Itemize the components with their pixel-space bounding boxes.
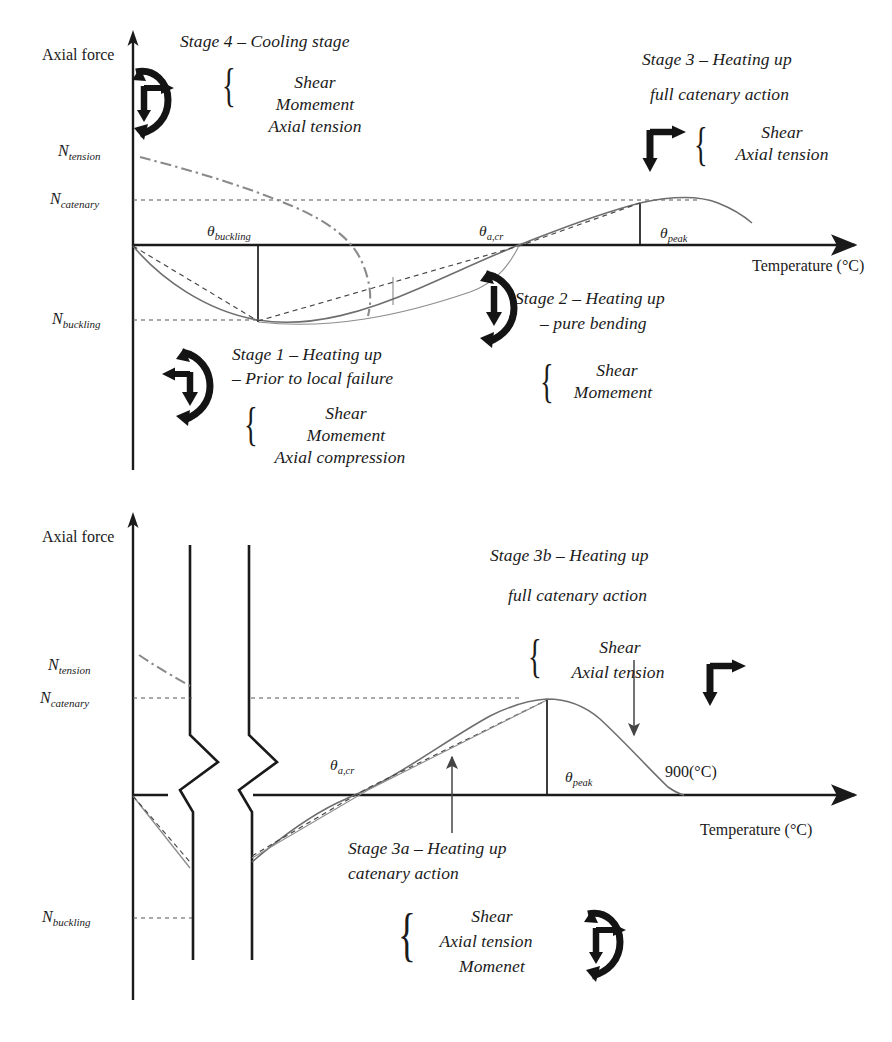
top-x-tick-theta-acr: θa,cr (479, 222, 503, 244)
bottom-y-tick-nbuckling: Nbuckling (42, 907, 91, 930)
bottom-left-stub-curves (133, 796, 190, 868)
stage-3b-title-line-1: Stage 3b – Heating up (490, 545, 649, 566)
stage-3b-force-axial-tension: Axial tension (538, 662, 698, 683)
bottom-end-temperature-marker: 900(°C) (665, 762, 717, 782)
stage-2-title-line-1: Stage 2 – Heating up (515, 288, 665, 309)
bottom-cooling-curve-dashdot (139, 655, 190, 686)
moment-arrow-cw-right-icon-stage4 (132, 68, 174, 140)
stage-4-brace: { (222, 59, 236, 112)
top-y-axis-label: Axial force (42, 45, 114, 65)
stage-3a-title-line-2: catenary action (348, 863, 459, 884)
bottom-y-tick-ncatenary: Ncatenary (40, 688, 89, 711)
bottom-axis-break (180, 545, 277, 960)
bottom-x-tick-theta-acr: θa,cr (330, 756, 354, 778)
shear-arrow-corner-right-icon-stage3b (703, 660, 747, 707)
stage-4-title-line-1: Stage 4 – Cooling stage (180, 31, 350, 52)
top-dashed-descend (133, 246, 258, 321)
stage-4-force-moment: Momement (236, 94, 394, 115)
bottom-stub-dashed (133, 796, 190, 862)
bottom-x-tick-theta-peak: θpeak (565, 768, 592, 790)
stage-1-title-line-1: Stage 1 – Heating up (232, 344, 382, 365)
top-y-tick-ntension: Ntension (58, 141, 100, 164)
bottom-leader-arrows (452, 660, 634, 833)
moment-arrow-left-cw-icon-stage1 (162, 348, 210, 426)
top-x-axis-label: Temperature (°C) (752, 256, 864, 276)
bottom-break-edge-right (239, 545, 277, 960)
stage-3-title-line-1: Stage 3 – Heating up (642, 49, 792, 70)
top-x-tick-theta-buckling: θbuckling (207, 222, 251, 244)
bottom-x-axis-label: Temperature (°C) (700, 820, 812, 840)
stage-1-title-line-2: – Prior to local failure (232, 368, 393, 389)
stage-3a-force-moment: Momenet (412, 956, 572, 977)
stage-3-force-axial-tension: Axial tension (706, 144, 858, 165)
stage-4-force-axial-tension: Axial tension (236, 116, 394, 137)
stage-3a-force-shear: Shear (412, 906, 572, 927)
top-cooling-curve-dashdot (140, 157, 370, 316)
stage-1-force-shear: Shear (256, 403, 436, 424)
stage-3-title-line-2: full catenary action (650, 84, 789, 105)
stage-4-force-shear: Shear (236, 72, 394, 93)
stage-3a-force-axial-tension: Axial tension (406, 931, 566, 952)
stage-3b-title-line-2: full catenary action (508, 585, 647, 606)
stage-2-force-moment: Momement (548, 382, 678, 403)
stage-3-force-shear: Shear (706, 122, 858, 143)
bottom-secondary-curve (252, 700, 547, 858)
stage-3b-force-shear: Shear (540, 637, 700, 658)
top-secondary-curve (258, 246, 519, 324)
bottom-y-axis-label: Axial force (42, 527, 114, 547)
figure-root: Axial force Temperature (°C) Ntension Nc… (0, 0, 892, 1042)
bottom-break-edge-left (180, 545, 218, 960)
bottom-y-tick-ntension: Ntension (48, 655, 90, 678)
bottom-stub-solid (133, 796, 190, 868)
shear-arrow-corner-right-icon-stage3 (643, 126, 687, 173)
top-x-tick-theta-peak: θpeak (660, 224, 687, 246)
stage-2-title-line-2: – pure bending (540, 313, 647, 334)
stage-2-force-shear: Shear (552, 360, 682, 381)
top-y-tick-nbuckling: Nbuckling (52, 309, 101, 332)
top-y-tick-ncatenary: Ncatenary (50, 189, 99, 212)
moment-arrow-cw-right-icon-stage3a (584, 910, 626, 982)
moment-arrow-down-ccw-icon-stage2 (480, 270, 514, 348)
stage-1-force-moment: Momement (256, 425, 436, 446)
stage-3a-title-line-1: Stage 3a – Heating up (348, 838, 507, 859)
stage-1-force-axial-compression: Axial compression (250, 447, 430, 468)
